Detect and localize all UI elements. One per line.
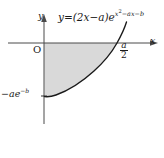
- fraction-denominator: 2: [120, 50, 128, 60]
- origin-label: O: [33, 45, 41, 55]
- equation-factor: (2x−a): [73, 11, 109, 23]
- curve-equation-label: y=(2x−a)ex2−ax−b: [58, 11, 144, 22]
- equation-equals: =: [64, 11, 73, 23]
- y-intercept-label: −ae−b: [1, 89, 29, 99]
- y-intercept-sign: −: [1, 88, 9, 99]
- exponent-ax: ax: [127, 10, 134, 18]
- equation-exponent: x2−ax−b: [115, 10, 144, 18]
- x-axis-label: x: [150, 36, 155, 46]
- math-figure: y=(2x−a)ex2−ax−b y x O −ae−b a2: [0, 0, 164, 158]
- y-intercept-coefficient: ae: [9, 88, 20, 99]
- plot-canvas: [0, 0, 164, 158]
- fraction-numerator: a: [120, 41, 128, 50]
- y-intercept-exponent-value: b: [25, 87, 29, 94]
- y-axis-label: y: [38, 11, 43, 21]
- x-root-label: a2: [120, 41, 128, 61]
- exponent-b: b: [140, 10, 144, 18]
- shaded-region: [44, 43, 117, 97]
- y-intercept-exponent: −b: [20, 87, 29, 94]
- fraction: a2: [120, 41, 128, 61]
